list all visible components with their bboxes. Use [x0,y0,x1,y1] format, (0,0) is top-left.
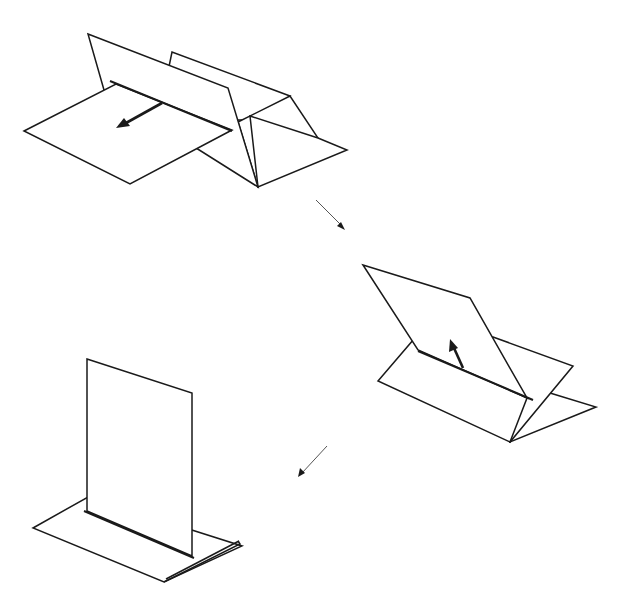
step-2-figure [363,265,596,442]
step-1-figure [24,34,347,187]
transition-arrow-2-to-3 [298,446,327,477]
arrowhead-down-left-icon [298,468,305,477]
arrowhead-down-right-icon [337,222,345,230]
folding-diagram [0,0,636,614]
step-3-figure [33,359,242,582]
transition-arrow-1-to-2 [316,200,345,230]
